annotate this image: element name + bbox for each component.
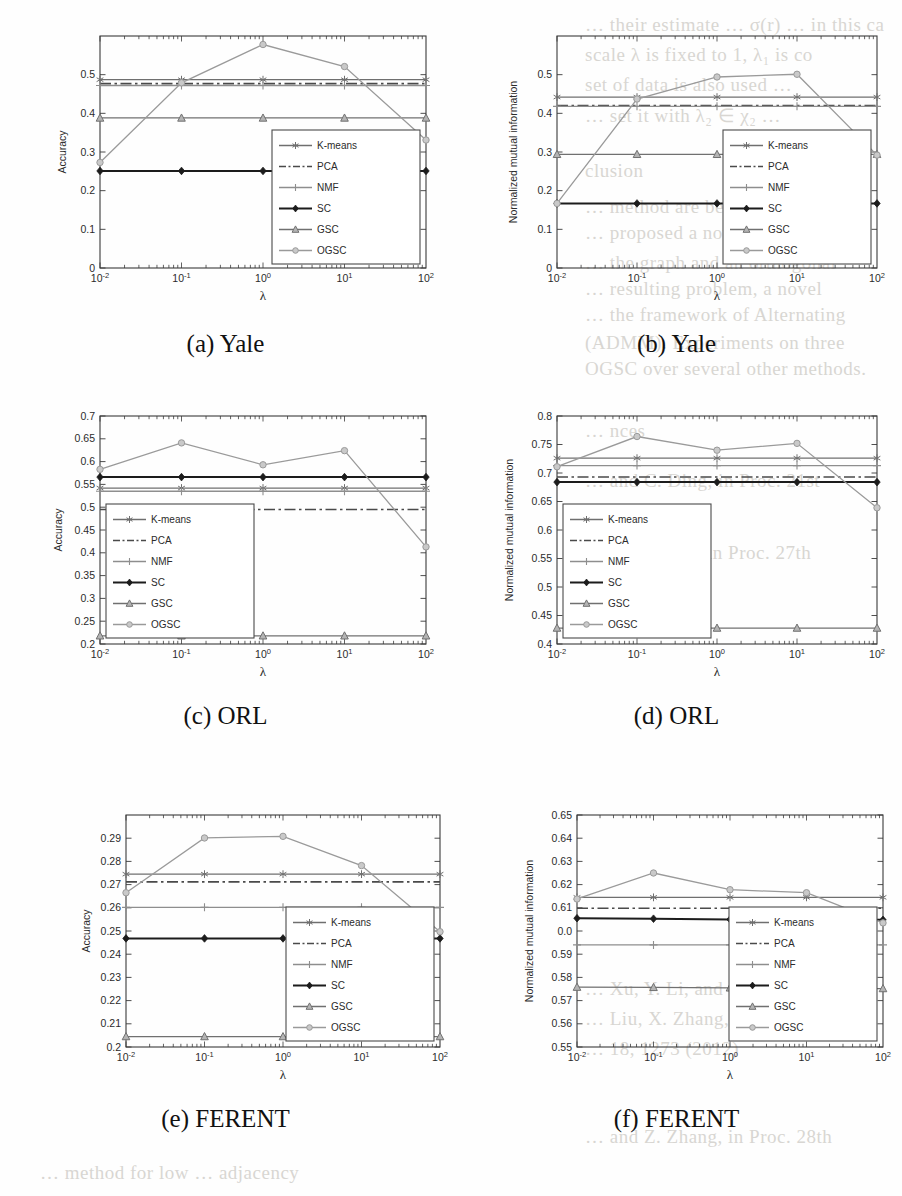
x-tick-label: 10-1 [195,1050,213,1063]
y-tick-label: 0.5 [80,501,95,513]
chart-svg-b: 00.10.20.30.40.510-210-1100101102λNormal… [479,14,899,314]
x-tick-labels: 10-210-1100101102 [117,1050,448,1063]
x-tick-label: 101 [789,647,805,660]
y-tick-label: 0.64 [552,832,573,844]
y-tick-label: 0.3 [80,146,95,158]
y-tick-label: 0.27 [101,878,122,890]
y-tick-label: 0.5 [537,581,552,593]
subplot-e: 0.20.210.220.230.240.250.260.270.280.291… [60,797,460,1093]
subplot-c-caption: (c) ORL [0,702,451,730]
y-tick-label: 0.1 [80,223,95,235]
x-tick-label: 10-2 [117,1050,135,1063]
x-tick-label: 10-1 [628,647,646,660]
x-tick-label: 10-1 [172,647,190,660]
x-tick-label: 10-1 [172,271,190,284]
y-tick-label: 0.25 [101,925,122,937]
x-axis-label: λ [727,1067,734,1082]
y-axis-label: Accuracy [80,909,92,953]
legend-label-K-means: K-means [768,140,808,151]
x-tick-label: 102 [418,271,434,284]
y-tick-label: 0.29 [101,832,122,844]
x-tick-label: 102 [418,647,434,660]
legend-label-PCA: PCA [317,161,338,172]
y-tick-label: 0.45 [532,609,553,621]
y-tick-label: 0.4 [80,546,95,558]
y-tick-label: 0.22 [101,994,122,1006]
x-tick-label: 102 [869,271,885,284]
legend-label-GSC: GSC [331,1001,353,1012]
legend-label-GSC: GSC [774,1001,796,1012]
x-tick-label: 101 [354,1050,370,1063]
subplot-d-caption: (d) ORL [451,702,902,730]
legend[interactable]: K-meansPCANMFSCGSCOGSC [286,907,434,1041]
chart-svg-d: 0.40.450.50.550.60.650.70.750.810-210-11… [479,398,899,690]
y-tick-label: 0.65 [75,432,96,444]
x-axis-label: λ [260,664,267,679]
y-axis-label: Normalized mutual information [523,860,535,1003]
legend-label-SC: SC [151,577,165,588]
legend[interactable]: K-meansPCANMFSCGSCOGSC [272,130,420,264]
legend-label-SC: SC [608,577,622,588]
legend[interactable]: K-meansPCANMFSCGSCOGSC [106,504,254,638]
y-tick-label: 0.75 [532,438,553,450]
subplot-a-caption: (a) Yale [0,330,451,358]
x-tick-label: 10-1 [628,271,646,284]
legend-label-NMF: NMF [608,556,630,567]
x-tick-label: 10-2 [91,271,109,284]
subplot-cell-f: 0.550.560.570.580.590.00.610.620.630.640… [451,775,902,1196]
y-tick-label: 0.25 [75,615,96,627]
x-tick-labels: 10-210-1100101102 [548,647,885,660]
subplot-cell-b: 00.10.20.30.40.510-210-1100101102λNormal… [451,0,902,390]
y-tick-label: 0.26 [101,901,122,913]
legend-label-SC: SC [774,980,788,991]
y-tick-label: 0.28 [101,855,122,867]
y-tick-label: 0.45 [75,524,96,536]
y-tick-label: 0.21 [101,1017,122,1029]
y-tick-label: 0.1 [537,223,552,235]
y-tick-label: 0.58 [552,971,573,983]
legend-label-PCA: PCA [608,535,629,546]
subplot-b-caption: (b) Yale [451,330,902,358]
legend-label-PCA: PCA [331,938,352,949]
legend-label-NMF: NMF [774,959,796,970]
legend[interactable]: K-meansPCANMFSCGSCOGSC [729,907,877,1041]
legend-label-GSC: GSC [768,224,790,235]
subplot-cell-e: 0.20.210.220.230.240.250.260.270.280.291… [0,775,451,1196]
y-tick-label: 0.5 [80,68,95,80]
y-tick-label: 0.23 [101,971,122,983]
legend-label-OGSC: OGSC [151,619,180,630]
x-tick-label: 101 [337,647,353,660]
legend-label-GSC: GSC [608,598,630,609]
x-tick-label: 100 [275,1050,291,1063]
subplot-cell-c: 0.20.250.30.350.40.450.50.550.60.650.710… [0,390,451,775]
series-markers-OGSC [554,433,880,511]
legend-label-PCA: PCA [768,161,789,172]
y-tick-label: 0.62 [552,878,573,890]
x-tick-label: 101 [789,271,805,284]
x-tick-label: 100 [255,647,271,660]
chart-svg-e: 0.20.210.220.230.240.250.260.270.280.291… [60,797,460,1093]
x-axis-label: λ [280,1067,287,1082]
x-tick-label: 100 [709,271,725,284]
x-tick-label: 101 [799,1050,815,1063]
x-tick-label: 10-2 [548,271,566,284]
legend-label-K-means: K-means [608,514,648,525]
legend[interactable]: K-meansPCANMFSCGSCOGSC [723,130,871,264]
subplot-cell-d: 0.40.450.50.550.60.650.70.750.810-210-11… [451,390,902,775]
chart-svg-c: 0.20.250.30.350.40.450.50.550.60.650.710… [28,398,448,690]
subplot-f-caption: (f) FERENT [451,1105,902,1133]
legend-label-GSC: GSC [151,598,173,609]
x-tick-labels: 10-210-1100101102 [91,647,434,660]
y-tick-label: 0.56 [552,1017,573,1029]
legend-label-OGSC: OGSC [331,1022,360,1033]
legend-label-GSC: GSC [317,224,339,235]
subplot-d: 0.40.450.50.550.60.650.70.750.810-210-11… [479,398,899,690]
subplot-e-caption: (e) FERENT [0,1105,451,1133]
legend[interactable]: K-meansPCANMFSCGSCOGSC [563,504,711,638]
legend-label-OGSC: OGSC [608,619,637,630]
y-tick-label: 0.2 [537,184,552,196]
x-tick-label: 10-2 [91,647,109,660]
y-tick-label: 0.0 [557,925,572,937]
x-tick-label: 10-1 [644,1050,662,1063]
y-tick-label: 0.57 [552,994,573,1006]
